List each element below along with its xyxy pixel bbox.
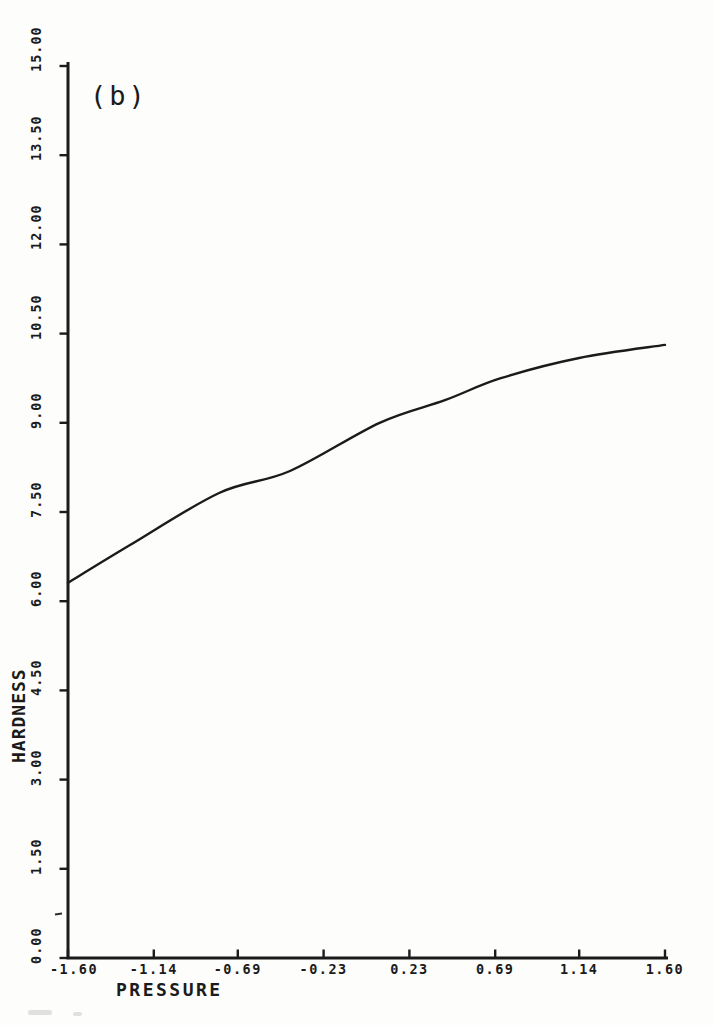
y-tick-label: 6.00 — [30, 529, 46, 607]
y-tick-label: 4.50 — [30, 618, 46, 696]
y-tick-label: 1.50 — [30, 797, 46, 875]
y-axis-title: HARDNESS — [10, 651, 28, 763]
x-tick-label: 0.23 — [367, 963, 451, 977]
plot-canvas — [0, 0, 714, 1025]
faint-caption-remnant — [73, 1012, 82, 1016]
y-tick-label: 13.50 — [30, 83, 46, 161]
panel-label: (b) — [90, 82, 148, 109]
x-tick-label: -0.69 — [196, 963, 280, 977]
x-tick-label: 1.14 — [537, 963, 621, 977]
y-tick-label: 12.00 — [30, 172, 46, 250]
x-tick-label: -1.14 — [112, 963, 196, 977]
x-axis-title: PRESSURE — [116, 981, 223, 999]
axis-spines — [68, 62, 668, 958]
chart-curve — [68, 345, 665, 583]
x-tick-label: 1.60 — [623, 963, 707, 977]
y-tick-label: 15.00 — [30, 0, 46, 72]
y-tick-label: 9.00 — [30, 351, 46, 429]
x-tick-label: -1.60 — [32, 963, 116, 977]
faint-caption-remnant — [28, 1010, 52, 1015]
y-tick-label: 0.00 — [30, 886, 46, 964]
stray-scan-mark — [55, 914, 62, 915]
scanned-chart-page: (b) PRESSURE HARDNESS 0.001.503.004.506.… — [0, 0, 714, 1025]
y-tick-label: 10.50 — [30, 262, 46, 340]
y-tick-label: 3.00 — [30, 708, 46, 786]
x-tick-label: -0.23 — [282, 963, 366, 977]
x-tick-label: 0.69 — [453, 963, 537, 977]
y-tick-label: 7.50 — [30, 440, 46, 518]
